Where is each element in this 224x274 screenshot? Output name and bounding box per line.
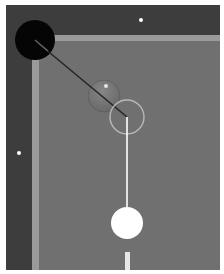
diamond-marker	[17, 151, 21, 155]
cue-stick-tip	[125, 252, 130, 270]
billiards-diagram	[0, 0, 224, 274]
top-cushion	[32, 35, 220, 41]
object-ball-highlight	[104, 84, 108, 88]
cue-ball	[111, 207, 143, 239]
left-cushion	[32, 35, 39, 270]
diamond-marker	[139, 18, 143, 22]
